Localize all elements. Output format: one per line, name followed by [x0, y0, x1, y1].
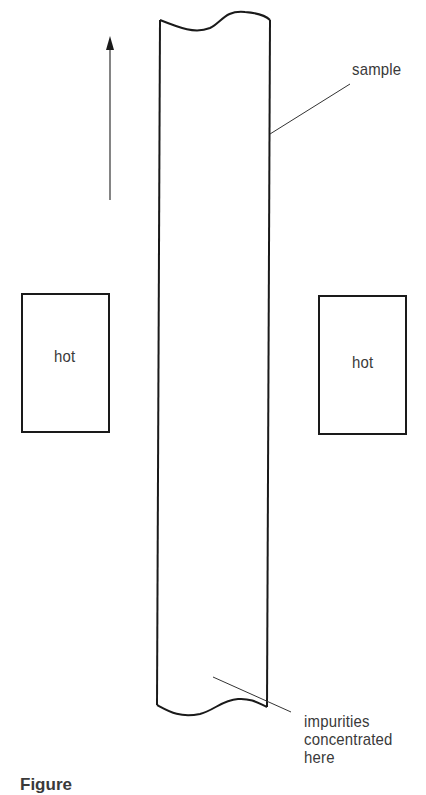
sample-leader-line	[270, 84, 350, 134]
impurities-label-line1: impurities	[304, 712, 370, 732]
figure-caption: Figure	[20, 775, 72, 795]
impurities-leader-line	[213, 677, 291, 712]
impurities-label-line2: concentrated	[304, 730, 393, 750]
sample-label: sample	[352, 60, 401, 80]
sample-rod	[157, 12, 270, 716]
hot-right-label: hot	[352, 353, 373, 373]
hot-left-label: hot	[54, 347, 75, 367]
impurities-label-line3: here	[304, 748, 335, 768]
arrow-up-icon	[106, 36, 114, 200]
